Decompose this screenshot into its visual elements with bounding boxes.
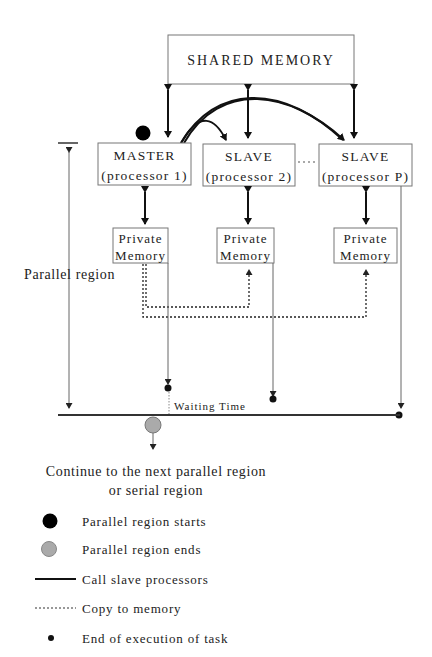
processor-name: (processor 1): [101, 168, 187, 183]
processor-slave-p: SLAVE (processor P): [319, 144, 412, 186]
private-memory-2: Private Memory: [217, 228, 274, 263]
private-memory-label: Private: [119, 231, 163, 246]
shared-memory-label: SHARED MEMORY: [187, 53, 335, 68]
private-memory-1: Private Memory: [113, 228, 168, 263]
legend-small-dot-icon: [48, 635, 54, 641]
legend-label: Parallel region starts: [82, 514, 206, 529]
legend-gray-circle-icon: [42, 542, 57, 557]
legend-label: Copy to memory: [82, 601, 181, 616]
private-memory-label: Private: [224, 231, 268, 246]
parallel-start-marker: [136, 126, 151, 141]
private-memory-3: Private Memory: [334, 228, 397, 263]
processor-master: MASTER (processor 1): [98, 143, 191, 185]
copy-to-memory-paths: [143, 264, 366, 317]
legend-label: Call slave processors: [82, 572, 209, 587]
private-memory-label: Memory: [220, 248, 271, 263]
continue-label-line1: Continue to the next parallel region: [46, 464, 266, 479]
shared-memory-links: [168, 90, 354, 138]
processor-role: SLAVE: [225, 149, 273, 164]
legend-label: End of execution of task: [82, 631, 228, 646]
processor-slave-2: SLAVE (processor 2): [203, 144, 295, 186]
private-memory-label: Memory: [115, 248, 166, 263]
waiting-time-label: Waiting Time: [174, 400, 246, 412]
parallel-execution-diagram: SHARED MEMORY MASTER (processor 1) SLAVE…: [0, 0, 432, 657]
legend: Parallel region starts Parallel region e…: [35, 514, 228, 647]
processor-role: SLAVE: [342, 149, 390, 164]
private-memory-label: Memory: [340, 248, 391, 263]
parallel-region-label: Parallel region: [24, 267, 115, 282]
legend-black-circle-icon: [43, 514, 58, 529]
shared-memory-box: SHARED MEMORY: [168, 35, 354, 84]
private-memory-links: [145, 192, 366, 224]
legend-label: Parallel region ends: [82, 542, 201, 557]
continue-label-line2: or serial region: [109, 483, 203, 498]
private-memory-label: Private: [344, 231, 388, 246]
parallel-end-marker: [145, 417, 161, 433]
processor-name: (processor P): [322, 169, 409, 184]
processor-name: (processor 2): [206, 169, 292, 184]
processor-role: MASTER: [114, 148, 176, 163]
call-slave-arrows: [181, 98, 344, 143]
